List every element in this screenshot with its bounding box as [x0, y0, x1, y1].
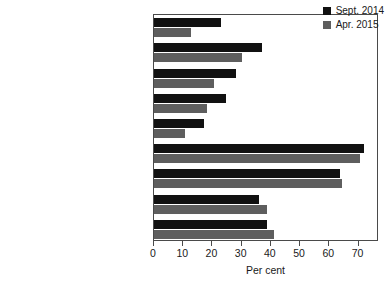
bar — [154, 53, 242, 62]
bar — [154, 169, 340, 178]
x-axis-tick — [241, 241, 242, 246]
x-axis-tick-label: 60 — [322, 247, 334, 259]
x-axis-tick-label: 50 — [293, 247, 305, 259]
x-axis-tick-label: 20 — [206, 247, 218, 259]
bar — [154, 195, 259, 204]
legend-swatch-icon — [323, 21, 331, 29]
x-axis-title: Per cent — [153, 264, 378, 276]
x-axis-tick — [328, 241, 329, 246]
bar — [154, 18, 221, 27]
x-axis-tick-label: 70 — [352, 247, 364, 259]
plot-area — [153, 14, 378, 241]
bar — [154, 119, 204, 128]
bar — [154, 69, 236, 78]
bar — [154, 104, 207, 113]
bar — [154, 205, 267, 214]
bar — [154, 154, 360, 163]
x-axis-tick — [153, 241, 154, 246]
x-axis-tick-label: 30 — [235, 247, 247, 259]
legend-item: Apr. 2015 — [323, 19, 384, 30]
chart-legend: Sept. 2014Apr. 2015 — [323, 5, 384, 30]
x-axis-tick — [299, 241, 300, 246]
legend-label: Apr. 2015 — [336, 19, 379, 30]
bar — [154, 28, 191, 37]
bar — [154, 43, 262, 52]
x-axis-tick — [182, 241, 183, 246]
bar — [154, 144, 364, 153]
x-axis-tick-label: 0 — [150, 247, 156, 259]
bar — [154, 129, 185, 138]
legend-item: Sept. 2014 — [323, 5, 384, 16]
bar — [154, 230, 274, 239]
bar — [154, 79, 214, 88]
legend-swatch-icon — [323, 7, 331, 15]
x-axis-tick — [211, 241, 212, 246]
bar-chart: Keeps promisesUnderstands Britain's prob… — [0, 0, 392, 292]
legend-label: Sept. 2014 — [336, 5, 384, 16]
x-axis-tick — [358, 241, 359, 246]
bar — [154, 94, 226, 103]
bar — [154, 179, 342, 188]
bar — [154, 220, 267, 229]
x-axis-tick-label: 10 — [176, 247, 188, 259]
x-axis-tick-label: 40 — [264, 247, 276, 259]
x-axis-tick — [270, 241, 271, 246]
